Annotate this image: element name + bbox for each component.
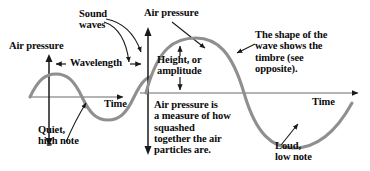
pressure-note-label: Air pressure is a measure of how squashe… (154, 99, 231, 156)
leader-sound-waves-right (106, 19, 141, 52)
leader-timbre-note (237, 44, 255, 53)
leader-air-pressure-top (172, 22, 205, 48)
sound-wave-figure: Sound waves Air pressure Air pressure Wa… (0, 0, 370, 171)
time-left-label: Time (104, 98, 127, 109)
height-amplitude-label: Height, or amplitude (157, 54, 202, 77)
air-pressure-left-label: Air pressure (9, 40, 64, 51)
quiet-high-note-label: Quiet, high note (38, 124, 79, 147)
air-pressure-top-label: Air pressure (144, 7, 199, 18)
time-right-label: Time (312, 96, 335, 107)
timbre-note-label: The shape of the wave shows the timbre (… (255, 29, 327, 74)
loud-low-note-label: Loud, low note (275, 140, 312, 163)
wavelength-label: Wavelength (70, 57, 122, 68)
sound-waves-label: Sound waves (79, 8, 107, 31)
